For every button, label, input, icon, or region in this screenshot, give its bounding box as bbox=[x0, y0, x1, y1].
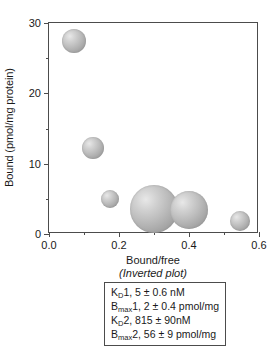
y-tick-mark bbox=[46, 58, 49, 59]
annotation-subscript: D bbox=[118, 291, 123, 300]
x-tick-label: 0.4 bbox=[181, 240, 196, 251]
annotation-symbol: B bbox=[111, 300, 118, 312]
annotation-subscript: max bbox=[118, 305, 132, 314]
x-tick-label: 0.0 bbox=[41, 240, 56, 251]
y-tick-label: 30 bbox=[29, 18, 41, 29]
x-tick-mark bbox=[224, 232, 225, 235]
x-tick-mark bbox=[259, 232, 260, 237]
annotation-symbol: B bbox=[111, 328, 118, 340]
annotation-symbol: K bbox=[111, 314, 118, 326]
x-axis-subtitle-text: (Inverted plot) bbox=[119, 267, 187, 279]
x-tick-mark bbox=[49, 232, 50, 237]
data-point-bubble bbox=[82, 137, 104, 159]
annotation-line: Bmax2, 56 ± 9 pmol/mg bbox=[111, 328, 220, 342]
x-tick-mark bbox=[189, 232, 190, 237]
annotation-value: 1, 2 ± 0.4 pmol/mg bbox=[132, 300, 219, 312]
y-axis-title-text: Bound (pmol/mg protein) bbox=[3, 68, 15, 187]
annotation-value: 2, 56 ± 9 pmol/mg bbox=[132, 328, 216, 340]
y-tick-mark bbox=[46, 199, 49, 200]
annotation-value: 2, 815 ± 90nM bbox=[123, 314, 190, 326]
y-tick-mark bbox=[44, 93, 49, 94]
x-axis-title: Bound/free bbox=[48, 254, 258, 267]
annotation-line: Bmax1, 2 ± 0.4 pmol/mg bbox=[111, 300, 220, 314]
y-tick-mark bbox=[44, 23, 49, 24]
annotation-symbol: K bbox=[111, 286, 118, 298]
y-tick-label: 20 bbox=[29, 88, 41, 99]
x-axis-title-text: Bound/free bbox=[126, 254, 180, 266]
parameter-annotation-box: KD1, 5 ± 0.6 nMBmax1, 2 ± 0.4 pmol/mgKD2… bbox=[104, 282, 226, 346]
y-tick-mark bbox=[44, 164, 49, 165]
plot-area: 0102030 0.00.20.40.6 bbox=[48, 22, 258, 233]
data-point-bubble bbox=[101, 190, 119, 208]
y-tick-mark bbox=[46, 129, 49, 130]
data-point-bubble bbox=[230, 211, 250, 231]
y-tick-label: 10 bbox=[29, 158, 41, 169]
annotation-subscript: max bbox=[118, 333, 132, 342]
annotation-value: 1, 5 ± 0.6 nM bbox=[123, 286, 184, 298]
x-tick-label: 0.6 bbox=[251, 240, 266, 251]
x-tick-label: 0.2 bbox=[111, 240, 126, 251]
annotation-line: KD2, 815 ± 90nM bbox=[111, 314, 220, 328]
annotation-line: KD1, 5 ± 0.6 nM bbox=[111, 286, 220, 300]
x-tick-mark bbox=[119, 232, 120, 237]
y-tick-label: 0 bbox=[35, 229, 41, 240]
y-axis-title: Bound (pmol/mg protein) bbox=[2, 22, 16, 233]
annotation-subscript: D bbox=[118, 319, 123, 328]
x-axis-subtitle: (Inverted plot) bbox=[48, 267, 258, 280]
data-point-bubble bbox=[170, 191, 208, 229]
data-point-bubble bbox=[62, 29, 86, 53]
x-tick-mark bbox=[84, 232, 85, 235]
